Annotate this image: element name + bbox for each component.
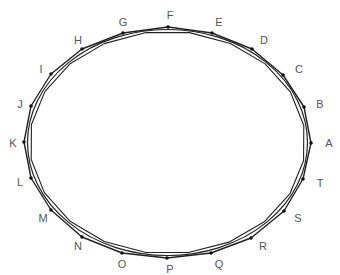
- vertex-label-r: R: [259, 241, 267, 252]
- vertex-r: [249, 236, 253, 240]
- vertex-label-n: N: [74, 241, 82, 252]
- vertex-j: [29, 104, 33, 108]
- vertex-label-s: S: [294, 213, 301, 224]
- vertex-label-b: B: [316, 99, 323, 110]
- inscribed-20-gon: [24, 27, 311, 258]
- vertex-e: [210, 31, 214, 35]
- vertex-o: [120, 251, 124, 255]
- vertex-label-j: J: [17, 99, 23, 110]
- vertex-label-k: K: [9, 138, 16, 149]
- vertex-label-d: D: [260, 35, 268, 46]
- vertex-label-o: O: [118, 259, 127, 270]
- vertex-points: [22, 25, 313, 260]
- vertex-l: [29, 176, 33, 180]
- vertex-d: [250, 47, 254, 51]
- ellipse-outline: [28, 30, 308, 256]
- vertex-label-f: F: [167, 10, 174, 21]
- vertex-label-a: A: [325, 138, 332, 149]
- vertex-label-i: I: [39, 64, 42, 75]
- vertex-b: [302, 105, 306, 109]
- vertex-k: [22, 140, 26, 144]
- vertex-h: [80, 47, 84, 51]
- vertex-c: [281, 73, 285, 77]
- vertex-label-l: L: [17, 177, 23, 188]
- vertex-label-g: G: [119, 17, 128, 28]
- vertex-m: [49, 208, 53, 212]
- vertex-i: [49, 72, 53, 76]
- vertex-label-q: Q: [215, 259, 224, 270]
- vertex-label-c: C: [295, 64, 303, 75]
- inner-polygon: [31, 33, 304, 253]
- vertex-p: [165, 256, 169, 260]
- vertex-a: [309, 141, 313, 145]
- vertex-t: [301, 177, 305, 181]
- vertex-label-t: T: [317, 178, 324, 189]
- vertex-s: [282, 209, 286, 213]
- vertex-label-m: M: [38, 213, 47, 224]
- vertex-f: [166, 25, 170, 29]
- vertex-label-e: E: [215, 17, 222, 28]
- vertex-label-p: P: [166, 264, 173, 275]
- vertex-q: [209, 251, 213, 255]
- vertex-label-h: H: [74, 35, 82, 46]
- vertex-g: [121, 31, 125, 35]
- vertex-n: [80, 235, 84, 239]
